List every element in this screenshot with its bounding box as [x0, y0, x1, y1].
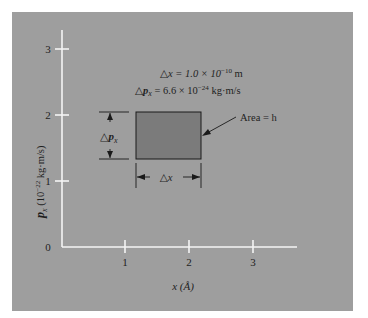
- delta-p-prefix: △p: [135, 85, 148, 96]
- y-tick-label-2: 2: [45, 109, 51, 121]
- arrow-left-icon: [137, 174, 145, 180]
- arrow-down-icon: [107, 151, 113, 158]
- delta-p-bracket-sub: x: [113, 136, 118, 145]
- delta-x-unit: m: [232, 68, 243, 79]
- arrow-up-icon: [107, 113, 113, 120]
- delta-x-prefix: △x = 1.0 × 10: [160, 68, 222, 79]
- y-label-unit-pre: (10: [35, 192, 47, 209]
- arrow-right-icon: [192, 174, 200, 180]
- y-tick-label-0: 0: [45, 241, 51, 253]
- delta-p-exp: −24: [198, 84, 209, 92]
- area-pointer: [202, 117, 236, 136]
- y-label-unit-post: kg·m/s): [35, 145, 47, 181]
- y-tick-label-3: 3: [45, 43, 51, 55]
- x-tick-label-1: 1: [122, 256, 128, 268]
- x-tick-label-2: 2: [186, 256, 192, 268]
- x-axis-label: x (Å): [171, 280, 194, 293]
- delta-x-bracket-label: △x: [160, 172, 173, 183]
- delta-p-unit: kg·m/s: [209, 85, 241, 96]
- delta-p-mid: = 6.6 × 10: [152, 85, 198, 96]
- x-tick-label-3: 3: [250, 256, 256, 268]
- uncertainty-rectangle: [136, 112, 201, 159]
- delta-p-bracket-text: △p: [100, 130, 114, 142]
- y-tick-label-1: 1: [45, 175, 51, 187]
- area-label: Area = h: [240, 112, 278, 123]
- y-label-exp: −22: [34, 180, 42, 191]
- uncertainty-diagram: 3 2 1 0 1 2 3 x (Å) px (10−22 kg·m/s) △x…: [0, 0, 368, 318]
- delta-p-bracket-label: △px: [100, 130, 118, 145]
- pointer-arrow-icon: [202, 129, 211, 136]
- delta-p-annotation: △px = 6.6 × 10−24 kg·m/s: [135, 84, 241, 98]
- y-label-var: p: [33, 212, 47, 219]
- delta-x-exp: −10: [221, 67, 232, 75]
- delta-x-annotation: △x = 1.0 × 10−10 m: [160, 67, 243, 79]
